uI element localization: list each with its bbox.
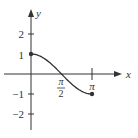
y-axis-label: y [35, 7, 41, 19]
x-tick-label-pi: π [89, 80, 95, 92]
y-tick-label-2: 2 [19, 28, 25, 40]
x-axis-label: x [125, 68, 131, 80]
x-tick-label-pi-half-num: π [58, 76, 64, 87]
cosine-plot: x y 2 1 −1 −2 π π 2 [0, 0, 138, 138]
end-point [90, 92, 94, 96]
x-axis-arrow-icon [114, 71, 122, 77]
y-tick-label-1: 1 [19, 49, 25, 61]
start-point [29, 52, 33, 56]
y-axis-arrow-icon [28, 9, 34, 17]
y-tick-label-neg2: −2 [12, 108, 24, 120]
x-tick-label-pi-half-den: 2 [59, 88, 64, 99]
y-tick-label-neg1: −1 [12, 88, 24, 100]
